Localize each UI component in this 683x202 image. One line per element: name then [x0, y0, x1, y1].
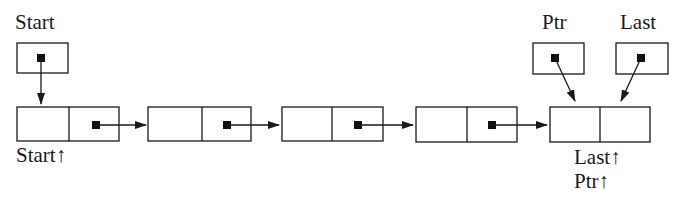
- ptr-var-label: Ptr: [542, 10, 567, 34]
- ptr-deref-label: Ptr↑: [574, 169, 609, 193]
- start-deref-label: Start↑: [16, 143, 66, 167]
- ptr-pointer-variable: Ptr: [533, 10, 584, 101]
- list-node-1: Start↑: [16, 107, 146, 167]
- list-node-4: [416, 107, 547, 142]
- start-var-label: Start: [15, 10, 55, 34]
- last-deref-label: Last↑: [574, 145, 621, 169]
- last-pointer-variable: Last: [616, 10, 668, 101]
- start-pointer-variable: Start: [15, 10, 68, 104]
- list-node-3: [282, 107, 413, 141]
- list-node-5: Last↑ Ptr↑: [550, 107, 650, 193]
- last-var-label: Last: [620, 10, 656, 34]
- node-1-box: [17, 107, 119, 141]
- list-node-2: [148, 107, 279, 141]
- node-2-box: [148, 107, 251, 141]
- linked-list-diagram: Start Ptr Last Start↑: [0, 0, 683, 202]
